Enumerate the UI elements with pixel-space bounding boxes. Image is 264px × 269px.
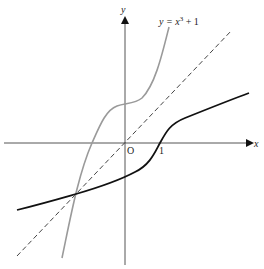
tick-label-1: 1 bbox=[159, 145, 164, 156]
origin-label: O bbox=[127, 145, 134, 156]
function-graph: y x O 1 y = x3 + 1 bbox=[0, 0, 264, 269]
y-axis-label: y bbox=[120, 4, 126, 15]
x-axis-label: x bbox=[253, 138, 259, 149]
cubic-equation-label: y = x3 + 1 bbox=[158, 15, 199, 27]
